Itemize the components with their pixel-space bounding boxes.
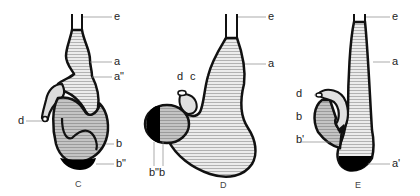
d-label-d: d bbox=[177, 71, 183, 82]
e-label-a1: a' bbox=[392, 158, 400, 169]
d-label-e: e bbox=[268, 11, 274, 22]
d-label-a: a bbox=[268, 58, 274, 69]
d-esophagus bbox=[226, 14, 237, 40]
c-part-b bbox=[53, 98, 108, 163]
e-label-b1: b' bbox=[296, 134, 304, 145]
d-part-d bbox=[178, 91, 186, 96]
e-label-a: a bbox=[392, 56, 398, 67]
diagram-canvas bbox=[0, 0, 420, 196]
c-caption: C bbox=[75, 180, 82, 189]
e-caption: E bbox=[355, 181, 361, 190]
d-label-b2b: b"b bbox=[149, 167, 165, 178]
c-d-opening bbox=[43, 117, 48, 122]
d-part-b2 bbox=[146, 106, 160, 143]
panel-c bbox=[26, 14, 114, 170]
e-d-opening bbox=[316, 93, 322, 97]
e-label-e: e bbox=[392, 11, 398, 22]
e-label-b: b bbox=[296, 111, 302, 122]
panel-e bbox=[300, 14, 390, 171]
e-label-d: d bbox=[296, 88, 302, 99]
c-label-b2: b" bbox=[116, 158, 126, 169]
c-label-a: a bbox=[114, 56, 120, 67]
d-label-c: c bbox=[190, 71, 196, 82]
panel-d bbox=[145, 14, 266, 177]
c-label-d: d bbox=[18, 115, 24, 126]
c-part-b2 bbox=[60, 158, 96, 170]
d-caption: D bbox=[220, 181, 227, 190]
c-label-b: b bbox=[116, 138, 122, 149]
c-label-e: e bbox=[114, 11, 120, 22]
c-label-a2: a" bbox=[114, 71, 124, 82]
